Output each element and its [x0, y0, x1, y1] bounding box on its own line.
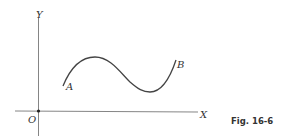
figure-caption: Fig. 16-6	[231, 116, 273, 126]
y-axis-label: Y	[36, 9, 44, 20]
figure-diagram: Y X O A B Fig. 16-6	[0, 0, 290, 140]
origin-label: O	[28, 114, 36, 125]
origin-point	[37, 109, 40, 112]
point-a-label: A	[65, 81, 73, 92]
curve-path	[63, 57, 176, 92]
x-axis-label: X	[199, 109, 208, 120]
point-b-label: B	[176, 59, 184, 70]
x-axis	[15, 111, 198, 112]
